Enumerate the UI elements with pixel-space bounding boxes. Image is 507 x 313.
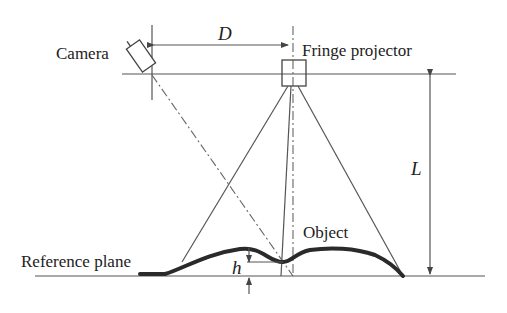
- distance-D-label: D: [217, 23, 232, 44]
- distance-L-label: L: [410, 158, 422, 179]
- projector-ray-center: [281, 86, 291, 276]
- height-h-label: h: [232, 257, 242, 278]
- projector-icon: [282, 60, 306, 86]
- camera-line-of-sight: [152, 75, 293, 276]
- reference-plane-label: Reference plane: [21, 252, 131, 271]
- fringe-projection-diagram: D L h Camera Fringe projector Reference …: [0, 0, 507, 313]
- projector-ray-left: [182, 86, 288, 262]
- camera-label: Camera: [56, 44, 109, 63]
- object-label: Object: [303, 223, 349, 242]
- camera-icon: [123, 35, 156, 72]
- fringe-projector-label: Fringe projector: [302, 41, 412, 60]
